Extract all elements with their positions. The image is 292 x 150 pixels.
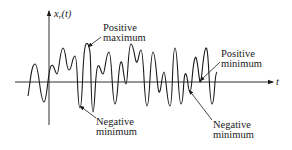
annotation-line: minimum	[96, 127, 137, 137]
annotation-negative-minimum-right: Negative minimum	[213, 120, 254, 140]
random-signal-diagram: xr(t) t Positive maximum Positive minimu…	[0, 0, 292, 150]
negative-minimum-2-arrow	[189, 90, 212, 120]
annotation-line: minimum	[213, 130, 254, 140]
annotation-positive-minimum: Positive minimum	[221, 49, 262, 69]
annotation-positive-maximum: Positive maximum	[103, 23, 146, 43]
y-axis-label: xr(t)	[54, 9, 71, 22]
annotation-line: maximum	[103, 33, 146, 43]
x-axis-label: t	[276, 77, 279, 87]
positive-maximum-arrow	[88, 37, 101, 47]
annotation-line: minimum	[221, 59, 262, 69]
annotation-negative-minimum-left: Negative minimum	[96, 117, 137, 137]
random-waveform	[28, 43, 217, 112]
y-axis-label-argument: (t)	[61, 8, 71, 19]
